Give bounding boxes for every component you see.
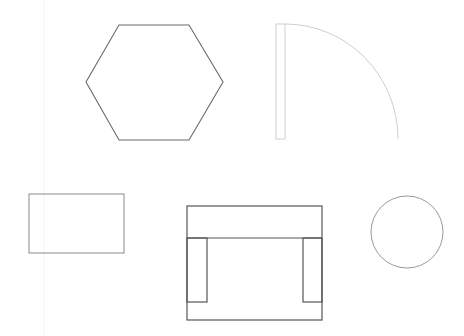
rectangle-shape[interactable] [29,194,124,253]
door-symbol[interactable] [276,24,398,139]
door-leaf[interactable] [276,24,285,139]
door-swing-arc[interactable] [285,24,398,139]
drawing-canvas [0,0,464,336]
armchair-right-arm[interactable] [303,238,322,302]
hexagon-shape[interactable] [86,25,223,140]
circle-shape[interactable] [371,196,443,268]
armchair-symbol[interactable] [187,206,322,320]
drawing-svg [0,0,464,336]
armchair-left-arm[interactable] [187,238,207,302]
